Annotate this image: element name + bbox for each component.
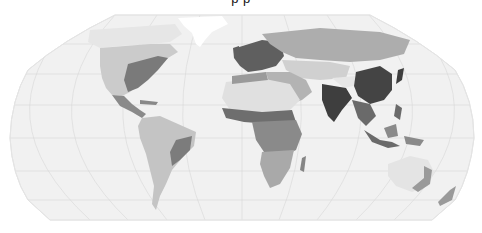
world-map <box>0 0 482 233</box>
region-uk <box>233 46 240 58</box>
